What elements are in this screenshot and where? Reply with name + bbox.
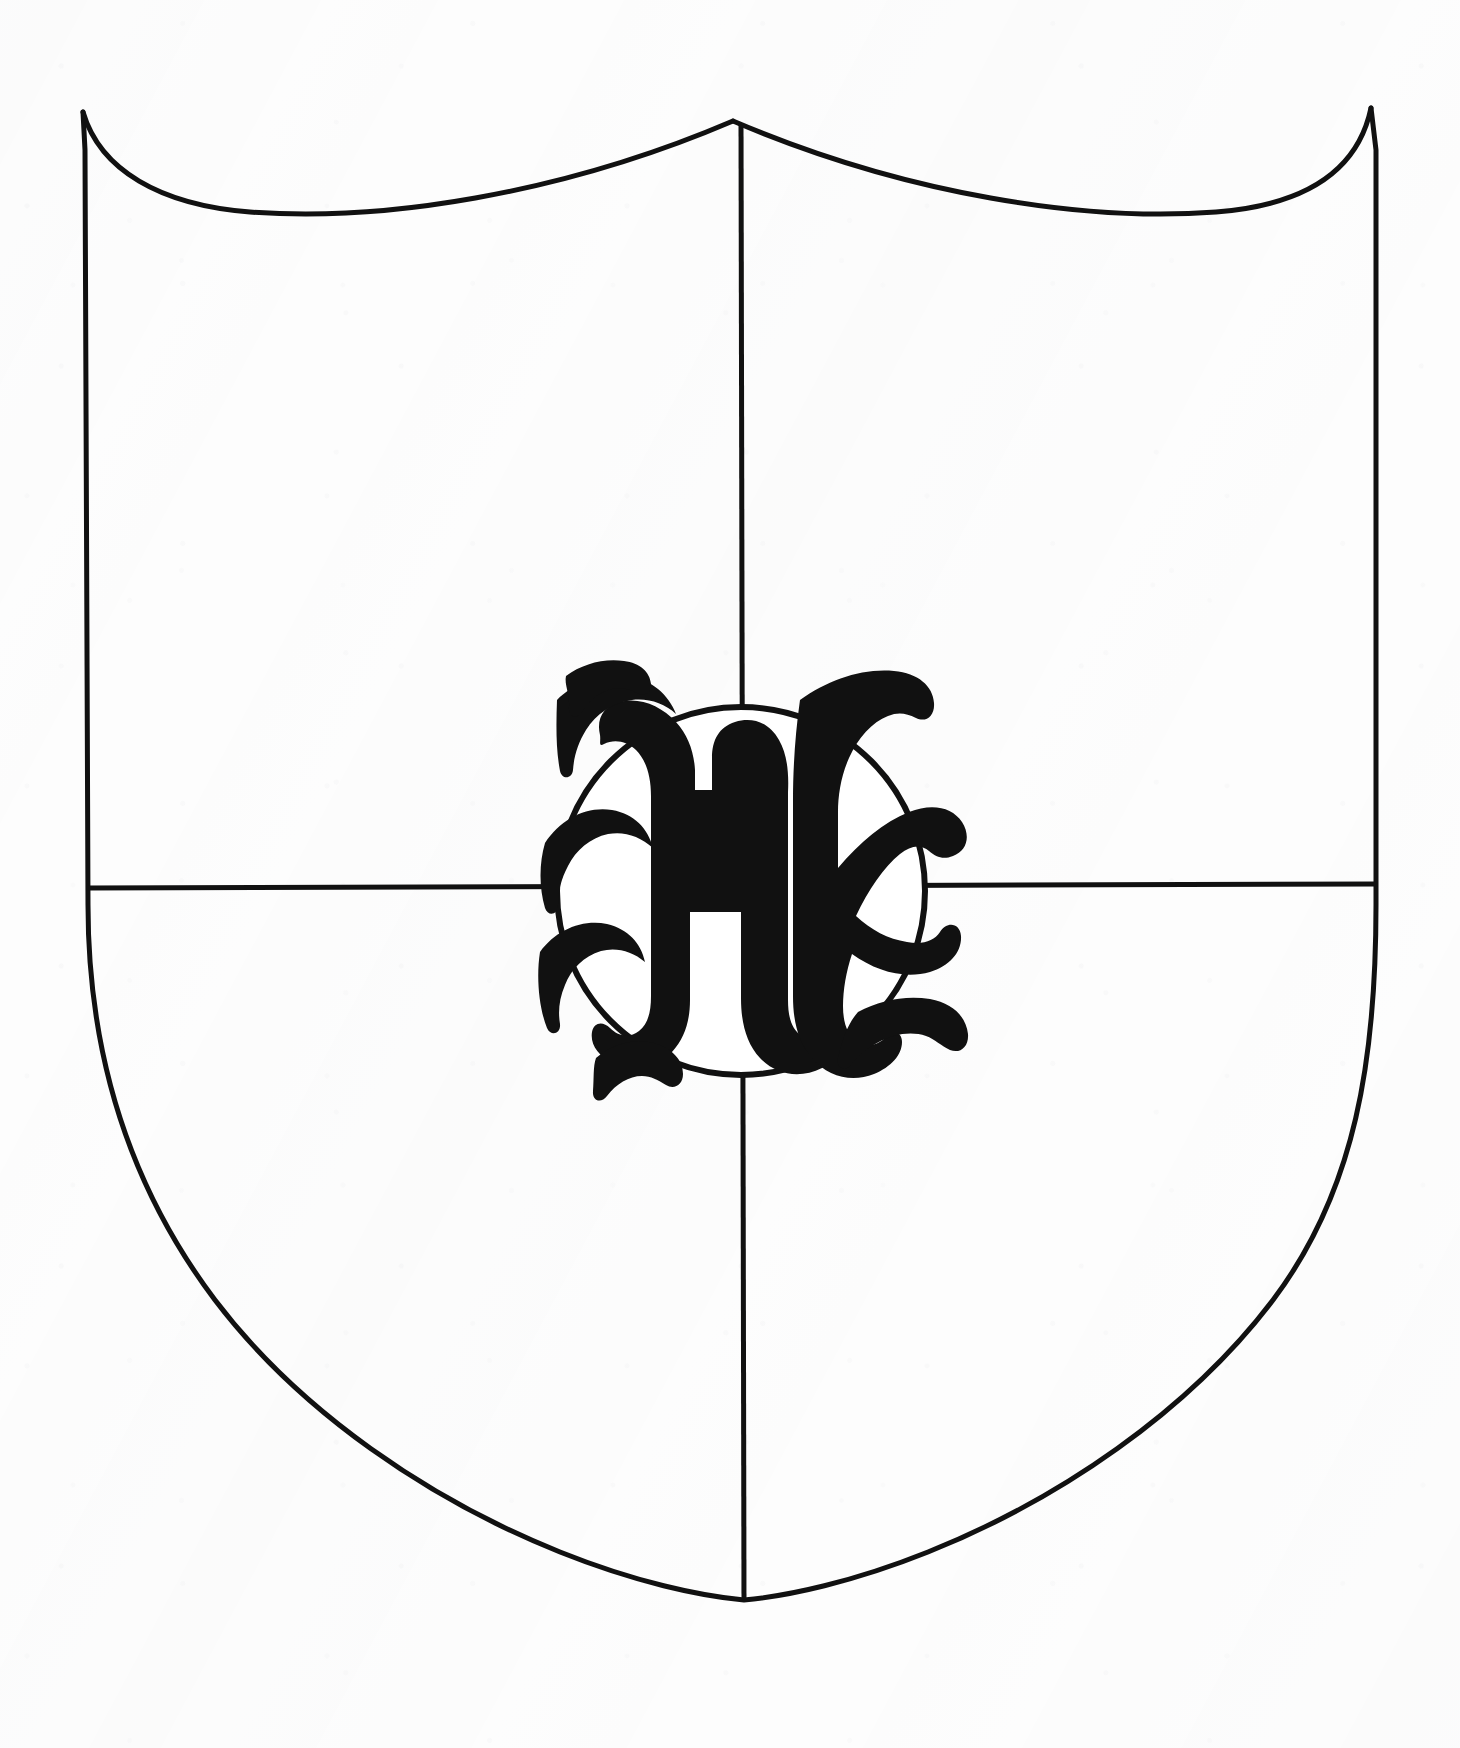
- center-roundel-group: [538, 660, 968, 1100]
- shield-chief-arch-left: [83, 112, 733, 214]
- page-canvas: Heraldic Shield — Quarterly with Inescut…: [0, 0, 1460, 1748]
- heraldic-shield-illustration: Heraldic Shield — Quarterly with Inescut…: [0, 0, 1460, 1748]
- shield-chief-arch-right: [733, 108, 1371, 214]
